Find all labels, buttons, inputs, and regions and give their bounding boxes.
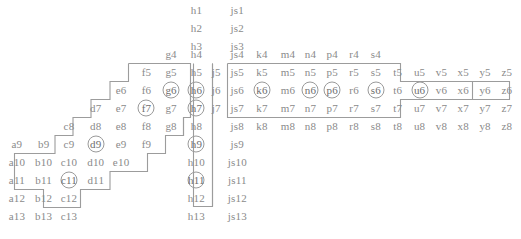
grid-cell-p8[interactable]: p8 (327, 121, 338, 132)
grid-cell-g7[interactable]: g7 (165, 103, 176, 114)
grid-cell-m8[interactable]: m8 (281, 121, 295, 132)
grid-cell-p4[interactable]: p4 (327, 49, 338, 60)
grid-cell-j7[interactable]: j7 (212, 103, 221, 114)
grid-cell-y5[interactable]: y5 (479, 67, 490, 78)
grid-cell-b12[interactable]: b12 (35, 193, 52, 204)
grid-cell-g4[interactable]: g4 (165, 49, 176, 60)
grid-cell-x6[interactable]: x6 (458, 85, 469, 96)
grid-cell-js1[interactable]: js1 (231, 5, 244, 16)
grid-cell-h6[interactable]: h6 (191, 85, 202, 96)
grid-cell-r5[interactable]: r5 (349, 67, 359, 78)
grid-cell-js4[interactable]: js4 (231, 49, 244, 60)
grid-cell-a13[interactable]: a13 (9, 211, 25, 222)
grid-cell-r8[interactable]: r8 (349, 121, 359, 132)
grid-cell-d7[interactable]: d7 (90, 103, 101, 114)
grid-cell-e8[interactable]: e8 (116, 121, 127, 132)
grid-cell-s6[interactable]: s6 (371, 85, 381, 96)
grid-cell-f6[interactable]: f6 (142, 85, 152, 96)
grid-cell-g5[interactable]: g5 (165, 67, 176, 78)
grid-cell-b10[interactable]: b10 (35, 157, 52, 168)
grid-cell-z5[interactable]: z5 (502, 67, 513, 78)
grid-cell-c10[interactable]: c10 (61, 157, 77, 168)
grid-cell-js10[interactable]: js10 (228, 157, 247, 168)
grid-cell-k6[interactable]: k6 (256, 85, 267, 96)
grid-cell-b11[interactable]: b11 (35, 175, 52, 186)
grid-cell-s7[interactable]: s7 (371, 103, 381, 114)
grid-cell-a11[interactable]: a11 (9, 175, 25, 186)
grid-cell-v5[interactable]: v5 (436, 67, 447, 78)
grid-cell-h12[interactable]: h12 (188, 193, 205, 204)
grid-cell-k7[interactable]: k7 (256, 103, 267, 114)
grid-cell-d10[interactable]: d10 (87, 157, 104, 168)
grid-cell-h10[interactable]: h10 (188, 157, 205, 168)
grid-cell-h7[interactable]: h7 (191, 103, 202, 114)
grid-cell-js5[interactable]: js5 (231, 67, 244, 78)
grid-cell-k5[interactable]: k5 (256, 67, 267, 78)
grid-cell-e9[interactable]: e9 (116, 139, 127, 150)
grid-cell-h1[interactable]: h1 (191, 5, 202, 16)
grid-cell-x5[interactable]: x5 (458, 67, 469, 78)
grid-cell-h4[interactable]: h4 (191, 49, 202, 60)
grid-cell-t5[interactable]: t5 (393, 67, 402, 78)
grid-cell-x8[interactable]: x8 (458, 121, 469, 132)
grid-cell-j6[interactable]: j6 (212, 85, 221, 96)
grid-cell-t7[interactable]: t7 (393, 103, 402, 114)
grid-cell-e7[interactable]: e7 (116, 103, 127, 114)
grid-cell-e10[interactable]: e10 (113, 157, 129, 168)
grid-cell-d8[interactable]: d8 (90, 121, 101, 132)
grid-cell-g6[interactable]: g6 (165, 85, 176, 96)
grid-cell-r7[interactable]: r7 (349, 103, 359, 114)
grid-cell-h11[interactable]: h11 (188, 175, 205, 186)
grid-cell-h2[interactable]: h2 (191, 23, 202, 34)
grid-cell-r6[interactable]: r6 (349, 85, 359, 96)
grid-cell-r4[interactable]: r4 (349, 49, 359, 60)
grid-cell-b9[interactable]: b9 (38, 139, 49, 150)
grid-cell-m5[interactable]: m5 (281, 67, 295, 78)
grid-cell-d11[interactable]: d11 (87, 175, 104, 186)
grid-cell-z7[interactable]: z7 (502, 103, 513, 114)
grid-cell-f8[interactable]: f8 (142, 121, 152, 132)
grid-cell-f7[interactable]: f7 (142, 103, 152, 114)
grid-cell-n5[interactable]: n5 (305, 67, 316, 78)
grid-cell-u5[interactable]: u5 (414, 67, 425, 78)
grid-cell-p7[interactable]: p7 (327, 103, 338, 114)
grid-cell-f5[interactable]: f5 (142, 67, 152, 78)
grid-cell-t8[interactable]: t8 (393, 121, 402, 132)
grid-cell-d9[interactable]: d9 (90, 139, 101, 150)
grid-cell-k4[interactable]: k4 (256, 49, 267, 60)
grid-cell-c9[interactable]: c9 (64, 139, 75, 150)
grid-cell-u6[interactable]: u6 (414, 85, 425, 96)
grid-cell-k8[interactable]: k8 (256, 121, 267, 132)
grid-cell-c11[interactable]: c11 (61, 175, 77, 186)
grid-cell-js13[interactable]: js13 (228, 211, 247, 222)
grid-cell-js11[interactable]: js11 (228, 175, 247, 186)
grid-cell-a9[interactable]: a9 (11, 139, 22, 150)
grid-cell-z6[interactable]: z6 (502, 85, 513, 96)
grid-cell-m7[interactable]: m7 (281, 103, 295, 114)
grid-cell-h9[interactable]: h9 (191, 139, 202, 150)
grid-cell-n6[interactable]: n6 (305, 85, 316, 96)
grid-cell-m6[interactable]: m6 (281, 85, 295, 96)
grid-cell-js8[interactable]: js8 (231, 121, 244, 132)
grid-cell-h8[interactable]: h8 (191, 121, 202, 132)
grid-cell-n7[interactable]: n7 (305, 103, 316, 114)
grid-cell-p5[interactable]: p5 (327, 67, 338, 78)
grid-cell-m4[interactable]: m4 (281, 49, 295, 60)
grid-cell-u8[interactable]: u8 (414, 121, 425, 132)
grid-cell-j5[interactable]: j5 (212, 67, 221, 78)
grid-cell-n4[interactable]: n4 (305, 49, 316, 60)
grid-cell-g8[interactable]: g8 (165, 121, 176, 132)
grid-cell-x7[interactable]: x7 (458, 103, 469, 114)
grid-cell-u7[interactable]: u7 (414, 103, 425, 114)
grid-cell-js9[interactable]: js9 (231, 139, 244, 150)
grid-cell-t6[interactable]: t6 (393, 85, 402, 96)
grid-cell-js2[interactable]: js2 (231, 23, 244, 34)
grid-cell-z8[interactable]: z8 (502, 121, 513, 132)
grid-cell-f9[interactable]: f9 (142, 139, 152, 150)
grid-cell-h13[interactable]: h13 (188, 211, 205, 222)
grid-cell-a10[interactable]: a10 (9, 157, 25, 168)
grid-cell-c12[interactable]: c12 (61, 193, 77, 204)
grid-cell-s5[interactable]: s5 (371, 67, 381, 78)
grid-cell-v6[interactable]: v6 (436, 85, 447, 96)
grid-cell-y6[interactable]: y6 (479, 85, 490, 96)
